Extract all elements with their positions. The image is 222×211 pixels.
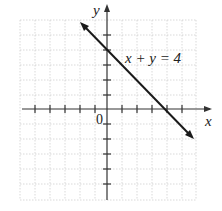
y-axis-arrow-icon xyxy=(104,4,110,12)
y-axis-label: y xyxy=(91,2,100,18)
coordinate-plane: y x 0 x + y = 4 xyxy=(0,0,222,211)
origin-label: 0 xyxy=(96,112,103,127)
grid xyxy=(20,20,196,200)
x-axis-arrow-icon xyxy=(204,106,212,112)
axes xyxy=(22,4,212,200)
equation-label: x + y = 4 xyxy=(124,50,182,66)
x-axis-label: x xyxy=(204,113,212,129)
